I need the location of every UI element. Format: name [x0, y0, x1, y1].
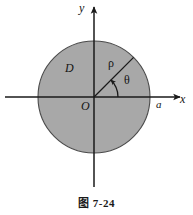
radius-endpoint-label: a	[156, 99, 162, 110]
y-axis-label: y	[79, 2, 84, 14]
figure-container: y x a O D ρ θ 图 7-24	[0, 0, 193, 215]
theta-label: θ	[124, 74, 130, 86]
polar-disk-diagram	[0, 0, 193, 193]
origin-label: O	[81, 100, 90, 112]
rho-label: ρ	[108, 57, 114, 69]
figure-caption: 图 7-24	[0, 194, 193, 210]
x-axis-label: x	[180, 93, 185, 105]
region-label: D	[65, 62, 74, 74]
